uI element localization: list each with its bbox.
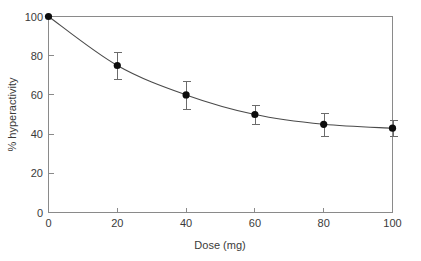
y-tick-label: 60 xyxy=(31,89,43,101)
y-axis-ticks xyxy=(49,17,54,213)
y-tick-label: 40 xyxy=(31,128,43,140)
data-point-marker xyxy=(251,111,258,118)
chart-figure: 0 20 40 60 80 100 0 20 40 60 80 100 Dose… xyxy=(0,0,421,261)
x-tick-label: 80 xyxy=(318,217,330,229)
y-tick-label: 20 xyxy=(31,167,43,179)
data-point-marker xyxy=(320,121,327,128)
x-axis-ticks xyxy=(49,208,393,213)
y-tick-label: 100 xyxy=(25,11,43,23)
data-point-marker xyxy=(389,125,396,132)
x-axis-tick-labels: 0 20 40 60 80 100 xyxy=(45,217,401,229)
y-axis-tick-labels: 0 20 40 60 80 100 xyxy=(25,11,43,219)
series-line xyxy=(49,17,393,129)
plot-frame xyxy=(49,17,393,213)
x-axis-title: Dose (mg) xyxy=(194,239,245,251)
series-group xyxy=(45,13,398,137)
x-tick-label: 40 xyxy=(180,217,192,229)
data-point-marker xyxy=(114,62,121,69)
x-tick-label: 20 xyxy=(111,217,123,229)
data-point-marker xyxy=(183,91,190,98)
data-markers xyxy=(45,13,396,132)
x-tick-label: 100 xyxy=(383,217,401,229)
x-tick-label: 0 xyxy=(45,217,51,229)
y-axis-title: % hyperactivity xyxy=(6,77,18,151)
error-bars xyxy=(114,52,398,137)
y-tick-label: 80 xyxy=(31,50,43,62)
x-tick-label: 60 xyxy=(249,217,261,229)
y-tick-label: 0 xyxy=(37,207,43,219)
data-point-marker xyxy=(45,13,52,20)
line-chart-svg: 0 20 40 60 80 100 0 20 40 60 80 100 Dose… xyxy=(0,0,421,261)
